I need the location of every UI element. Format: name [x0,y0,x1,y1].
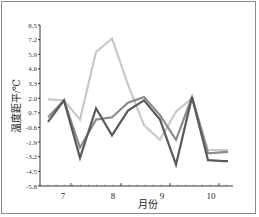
x-tick-label: 9 [160,191,165,201]
series-mid-line [48,97,228,153]
y-tick-label: 0.7 [28,109,37,117]
x-tick-label: 10 [207,191,217,201]
x-tick-label: 7 [61,191,66,201]
y-tick-label: 4.6 [28,65,37,73]
x-axis-title: 月份 [138,199,158,210]
y-axis-title: 温度距平/℃ [10,79,22,133]
x-axis: 78910 [40,183,233,201]
y-tick-label: 3.3 [28,80,37,88]
y-tick-label: -1.9 [26,139,38,147]
plot-area [48,39,228,165]
x-tick-label: 8 [111,191,116,201]
line-chart: 8.57.25.94.63.32.00.7-0.6-1.9-3.2-4.5-5.… [0,0,259,217]
y-tick-label: -0.6 [26,124,38,132]
y-tick-label: -5.8 [26,183,38,191]
y-tick-label: -4.5 [26,168,38,176]
y-tick-label: 7.2 [28,36,37,44]
y-tick-label: -3.2 [26,153,38,161]
y-axis: 8.57.25.94.63.32.00.7-0.6-1.9-3.2-4.5-5.… [26,22,40,191]
y-tick-label: 5.9 [28,51,37,59]
y-tick-label: 8.5 [28,22,37,30]
y-tick-label: 2.0 [28,95,37,103]
